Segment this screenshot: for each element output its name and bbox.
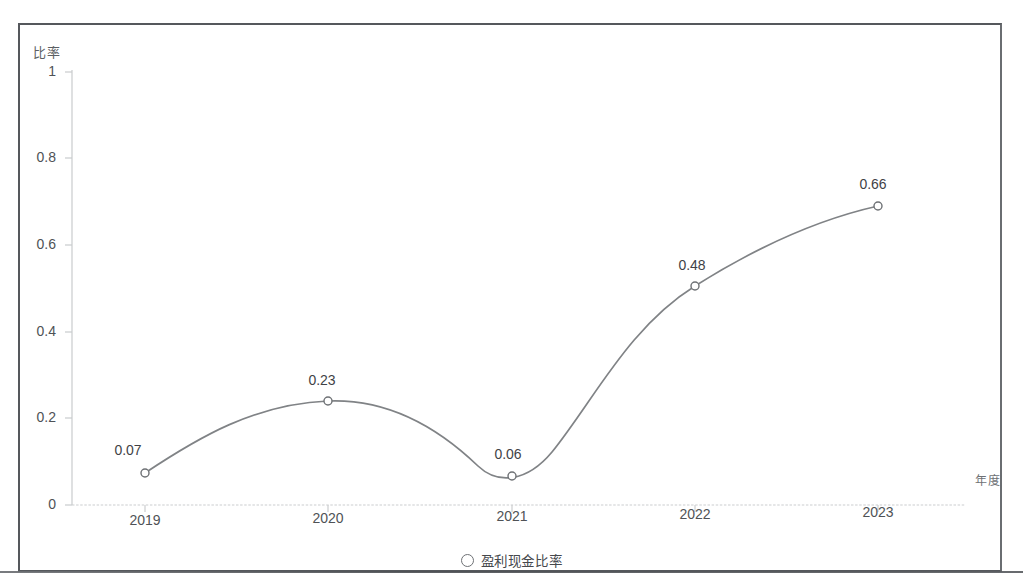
- x-tick-label-2022: 2022: [655, 506, 735, 522]
- x-tick-label-2023: 2023: [838, 504, 918, 520]
- data-label-2020: 0.23: [292, 372, 352, 388]
- data-label-2021: 0.06: [478, 446, 538, 462]
- chart-legend: 盈利现金比率: [0, 550, 1023, 570]
- data-label-2022: 0.48: [662, 257, 722, 273]
- x-tick-label-2019: 2019: [105, 512, 185, 528]
- y-axis-title: 比率: [33, 42, 60, 61]
- circle-outline-icon: [461, 554, 474, 567]
- document-border-frame: [18, 23, 1002, 572]
- y-tick-label-0.2: 0.2: [22, 409, 56, 425]
- y-tick-label-0.4: 0.4: [22, 323, 56, 339]
- x-tick-label-2021: 2021: [472, 508, 552, 524]
- y-tick-label-0: 0: [22, 496, 56, 512]
- y-tick-label-0.8: 0.8: [22, 149, 56, 165]
- legend-item-label: 盈利现金比率: [481, 550, 563, 570]
- x-axis-title: 年度: [975, 471, 1000, 488]
- data-label-2023: 0.66: [843, 176, 903, 192]
- y-tick-label-0.6: 0.6: [22, 236, 56, 252]
- document-bottom-rule: [0, 571, 1023, 573]
- data-label-2019: 0.07: [98, 442, 158, 458]
- x-tick-label-2020: 2020: [288, 510, 368, 526]
- y-tick-label-1: 1: [22, 63, 56, 79]
